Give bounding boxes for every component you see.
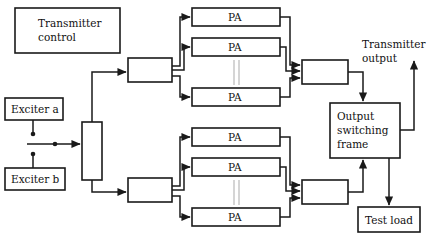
transmitter-output-label-line2: output <box>362 52 398 64</box>
transmitter-output-label-line1: Transmitter <box>362 38 426 50</box>
block-combiner-upper <box>302 60 348 84</box>
transmitter-control-label-line2: control <box>38 31 77 43</box>
diagram-canvas: Transmitter control Exciter a Exciter b … <box>0 0 429 241</box>
output-switching-frame-label-line3: frame <box>337 138 368 150</box>
block-splitter <box>82 122 102 180</box>
wire-combiner-lower-to-output-frame <box>348 160 363 192</box>
switch-contact-a-dot <box>31 132 36 137</box>
pa-lower-2-label: PA <box>228 161 242 173</box>
wire-pa-4-to-combiner-lower <box>280 137 300 185</box>
wire-output-frame-to-transmitter-output <box>400 61 414 130</box>
wire-pa-6-to-combiner-lower <box>280 198 300 217</box>
wire-driver-lower-to-pa-3 <box>172 196 190 217</box>
wire-combiner-upper-to-output-frame <box>348 72 363 101</box>
wire-driver-upper-to-pa-3 <box>172 76 190 97</box>
pa-lower-1-label: PA <box>228 131 242 143</box>
wire-pa-3-to-combiner-upper <box>280 78 300 97</box>
pa-upper-1-label: PA <box>228 11 242 23</box>
pa-upper-2-label: PA <box>228 41 242 53</box>
exciter-a-label: Exciter a <box>11 103 59 115</box>
switch-contact-b-dot <box>31 152 36 157</box>
pa-lower-3-label: PA <box>228 211 242 223</box>
transmitter-control-label-line1: Transmitter <box>38 17 102 29</box>
wire-splitter-to-driver-upper <box>92 72 126 122</box>
wire-driver-upper-to-pa-1 <box>172 17 190 66</box>
wire-driver-lower-to-pa-1 <box>172 137 190 186</box>
test-load-label: Test load <box>365 214 413 226</box>
block-driver-upper <box>128 58 172 82</box>
wire-pa-1-to-combiner-upper <box>280 17 300 65</box>
switch-pivot-dot <box>53 142 58 147</box>
output-switching-frame-label-line1: Output <box>337 110 375 122</box>
block-combiner-lower <box>302 180 348 204</box>
pa-upper-3-label: PA <box>228 91 242 103</box>
transmitter-block-diagram: Transmitter control Exciter a Exciter b … <box>0 0 429 241</box>
wire-splitter-to-driver-lower <box>92 180 126 192</box>
block-driver-lower <box>128 178 172 202</box>
output-switching-frame-label-line2: switching <box>337 124 389 136</box>
exciter-b-label: Exciter b <box>11 173 60 185</box>
